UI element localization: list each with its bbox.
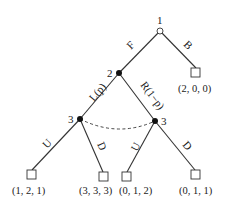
action-label-D-left: D (95, 140, 109, 152)
player3-right-node (152, 118, 158, 124)
action-label-L: L(p) (86, 80, 109, 104)
payoff-RD: (0, 1, 1) (179, 185, 213, 197)
player-label-3-right: 3 (161, 115, 167, 127)
payoff-RU: (0, 1, 2) (119, 185, 153, 197)
edge-U-left (32, 119, 80, 170)
player-label-root: 1 (157, 14, 163, 26)
payoff-LD: (3, 3, 3) (79, 185, 113, 197)
action-label-U-right: U (128, 140, 142, 153)
player3-left-node (77, 116, 83, 122)
player2-node (116, 70, 122, 76)
edge-B (160, 31, 196, 68)
action-label-D-right: D (180, 139, 194, 153)
terminal-node-LU (27, 170, 36, 179)
payoff-B: (2, 0, 0) (178, 83, 212, 95)
information-set-dashed (80, 119, 155, 129)
terminal-node-RD (191, 170, 200, 179)
action-label-R: R(1−p) (138, 79, 168, 113)
action-label-F: F (124, 39, 137, 52)
terminal-node-LD (99, 172, 108, 181)
payoff-LU: (1, 2, 1) (12, 185, 46, 197)
edge-F (119, 31, 160, 73)
root-node (157, 28, 163, 34)
terminal-node-B (191, 68, 200, 77)
player-label-2: 2 (107, 67, 113, 79)
player-label-3-left: 3 (68, 113, 74, 125)
action-label-B: B (182, 38, 196, 52)
game-tree-diagram: 1 2 3 3 F B L(p) R(1−p) U D U D (2, 0, 0… (0, 0, 229, 207)
terminal-node-RU (122, 172, 131, 181)
